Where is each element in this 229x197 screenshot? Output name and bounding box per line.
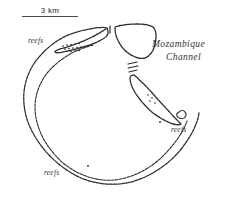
label-sea-line-2: Channel [152, 51, 205, 64]
reef-tick-marks [87, 121, 161, 167]
outer-reef-north-arc [90, 27, 107, 29]
map-drawing [0, 0, 229, 197]
label-reefs-east: reefs [171, 125, 186, 134]
inner-lagoon-edge [35, 45, 187, 180]
scale-bar-label: 3 km [22, 6, 78, 15]
atoll-map-figure: 3 km reefs reefs reefs Mozambique Channe… [0, 0, 229, 197]
label-reefs-northwest: reefs [28, 36, 43, 45]
scale-bar-rule [22, 16, 78, 17]
label-mozambique-channel: Mozambique Channel [152, 38, 205, 64]
label-sea-line-1: Mozambique [152, 39, 205, 49]
southeast-small-islet [177, 111, 186, 119]
southeast-islet [130, 75, 181, 125]
scale-bar: 3 km [22, 6, 78, 17]
northeast-island [115, 24, 156, 58]
label-reefs-southwest: reefs [44, 168, 59, 177]
